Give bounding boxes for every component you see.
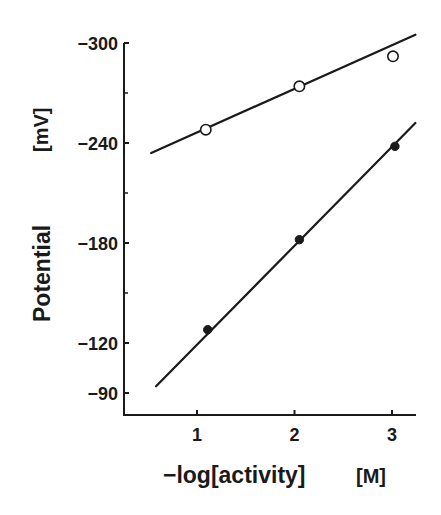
y-tick-label: −120: [77, 334, 118, 354]
y-axis-unit: [mV]: [30, 108, 52, 152]
y-tick-label: −90: [87, 384, 118, 404]
open-circle-marker: [388, 51, 398, 61]
chart-canvas: −300−240−180−120−90 123 −log[activity] […: [0, 0, 441, 515]
potential-vs-activity-chart: −300−240−180−120−90 123 −log[activity] […: [0, 0, 441, 515]
y-tick-label: −180: [77, 234, 118, 254]
fit-line: [156, 123, 415, 386]
y-tick-label: −240: [77, 134, 118, 154]
y-axis-title: Potential: [29, 225, 55, 322]
filled-circle-marker: [295, 235, 303, 243]
x-tick-label: 3: [387, 425, 397, 445]
series-filled-circles: [156, 123, 415, 386]
x-axis-title: −log[activity]: [163, 462, 306, 488]
open-circle-marker: [201, 124, 211, 134]
open-circle-marker: [294, 81, 304, 91]
series-open-circles: [151, 35, 415, 153]
fit-line: [151, 35, 415, 153]
x-tick-label: 1: [192, 425, 202, 445]
x-axis-unit: [M]: [356, 465, 386, 487]
filled-circle-marker: [204, 325, 212, 333]
y-tick-label: −300: [77, 34, 118, 54]
x-tick-label: 2: [289, 425, 299, 445]
y-axis-ticks: −300−240−180−120−90: [77, 34, 129, 404]
data-series: [151, 35, 415, 387]
filled-circle-marker: [391, 142, 399, 150]
axes: [123, 43, 416, 415]
